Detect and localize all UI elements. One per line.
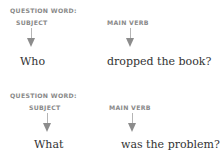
verb-arrow-icon [126, 28, 134, 47]
verb-arrow-icon [128, 113, 136, 132]
question-word-label: QUESTION WORD: [10, 7, 77, 14]
main-verb-label: MAIN VERB [109, 104, 151, 111]
subject-label: SUBJECT [16, 19, 48, 26]
main-verb-label: MAIN VERB [107, 19, 149, 26]
subject-label: SUBJECT [29, 104, 61, 111]
subject-word: What [34, 138, 63, 151]
verb-phrase: was the problem? [121, 138, 220, 151]
subject-word: Who [20, 55, 45, 68]
verb-phrase: dropped the book? [107, 55, 211, 68]
subject-arrow-icon [27, 28, 35, 47]
subject-arrow-icon [43, 113, 51, 132]
question-word-label: QUESTION WORD: [10, 92, 77, 99]
